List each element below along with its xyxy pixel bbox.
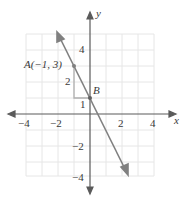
coordinate-plane: y x −4 −2 2 4 4 1 −2 −4 A(−1, 3) B 2 (0, 0, 188, 200)
point-b (88, 96, 92, 100)
x-tick-neg4: −4 (18, 117, 30, 129)
point-b-label: B (93, 84, 100, 96)
x-axis-label: x (173, 114, 179, 126)
point-a (72, 64, 76, 68)
x-tick-neg2: −2 (50, 117, 62, 129)
line-ab (57, 32, 128, 175)
x-tick-4: 4 (150, 117, 156, 129)
x-tick-2: 2 (118, 117, 124, 129)
y-tick-neg2: −2 (72, 140, 84, 152)
y-axis-label: y (95, 7, 101, 19)
y-tick-4: 4 (79, 43, 85, 55)
y-tick-1: 1 (80, 98, 86, 110)
y-tick-neg4: −4 (72, 171, 84, 183)
point-a-label: A(−1, 3) (23, 58, 62, 71)
rise-label: 2 (65, 75, 71, 87)
